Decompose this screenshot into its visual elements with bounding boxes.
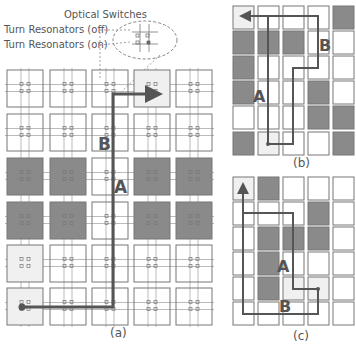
tile-r3-c0 [233,81,254,104]
tile-r4-c3 [134,245,170,282]
tile-r5-c3 [308,132,329,155]
tile-r4-c0 [7,245,43,282]
panel-caption: (a) [110,326,127,340]
legend-on-label: Turn Resonators (on) [3,39,108,50]
tile-r0-c1 [258,177,279,200]
tile-r0-c4 [333,177,354,200]
panel-caption: (b) [293,156,310,170]
tile-r2-c1 [50,158,86,195]
tile-r0-c4 [333,6,354,29]
tile-r3-c1 [258,252,279,275]
tile-r1-c0 [233,31,254,54]
tile-r0-c4 [176,70,212,107]
tile-r1-c4 [176,114,212,151]
tile-r0-c0 [7,70,43,107]
tile-r4-c4 [333,106,354,129]
tile-r0-c3 [134,70,170,107]
route-label-a: A [114,177,128,197]
route-label-a: A [277,257,290,276]
tile-r5-c3 [134,288,170,325]
tile-r2-c1 [258,227,279,250]
tile-r1-c3 [134,114,170,151]
tile-r0-c2 [283,6,304,29]
tile-r0-c3 [308,177,329,200]
legend-title: Optical Switches [64,9,147,20]
tile-r3-c4 [333,81,354,104]
tile-r0-c1 [50,70,86,107]
route-label-b: B [279,297,291,316]
tile-r4-c4 [176,245,212,282]
tile-r3-c0 [7,202,43,239]
tile-r3-c4 [176,202,212,239]
route-label-b: B [98,134,111,154]
tile-r1-c0 [7,114,43,151]
tile-r0-c2 [283,177,304,200]
tile-r4-c1 [50,245,86,282]
tile-r5-c4 [176,288,212,325]
tile-r2-c0 [7,158,43,195]
tile-r2-c4 [333,227,354,250]
tile-r3-c1 [50,202,86,239]
tile-r4-c3 [308,106,329,129]
tile-r1-c3 [308,202,329,225]
tile-r2-c4 [176,158,212,195]
tile-r4-c4 [333,277,354,300]
tile-r2-c0 [233,56,254,79]
tile-r1-c4 [333,202,354,225]
network-figure: Optical Switches Turn Resonators (off) T… [0,0,356,347]
panel-c: AB(c) [233,177,354,343]
tile-r0-c2 [92,70,128,107]
route-start-dot [19,304,26,311]
tile-r1-c2 [283,31,304,54]
tile-r4-c1 [258,277,279,300]
tile-r4-c2 [92,245,128,282]
tile-r2-c3 [134,158,170,195]
tile-r3-c3 [308,81,329,104]
tile-r3-c3 [134,202,170,239]
panel-caption: (c) [293,329,309,343]
tile-r3-c4 [333,252,354,275]
tile-r5-c0 [233,132,254,155]
tile-r2-c4 [333,56,354,79]
tile-r3-c2 [92,202,128,239]
tile-r3-c3 [308,252,329,275]
tile-r1-c4 [333,31,354,54]
tile-r4-c0 [233,106,254,129]
panel-b: BA(b) [233,6,354,170]
legend-off-label: Turn Resonators (off) [3,24,108,35]
tile-r5-c4 [333,302,354,325]
tile-r1-c1 [50,114,86,151]
tile-r2-c3 [308,227,329,250]
route-label-a: A [253,87,266,106]
panel-a: BA(a) [5,68,214,340]
route-label-b: B [319,36,331,55]
tile-r5-c4 [333,132,354,155]
switch-detail-icon [132,24,158,52]
tile-r0-c0 [233,6,254,29]
